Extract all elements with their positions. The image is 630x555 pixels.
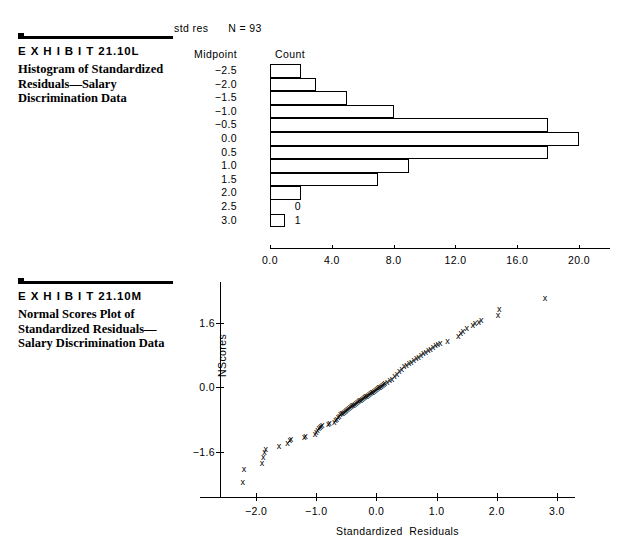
nscores-data-point: x	[437, 338, 444, 347]
cell-midpoint: −1.5	[215, 91, 237, 103]
histogram-bar	[270, 146, 548, 160]
nscores-x-tick	[437, 493, 438, 501]
nscores-y-tick-label: 0.0	[199, 381, 215, 393]
nscores-x-axis-title: Standardized Residuals	[220, 525, 575, 537]
nscores-x-tick-label: 1.0	[429, 505, 445, 517]
exhibit-rule	[18, 278, 173, 288]
histogram-x-tick-label: 0.0	[262, 254, 278, 266]
histogram-header-line: std res N = 93	[174, 22, 262, 34]
histogram-x-tick	[332, 245, 333, 249]
histogram-axis-line	[270, 248, 610, 249]
histogram-x-tick-label: 12.0	[444, 254, 466, 266]
nscores-x-tick	[256, 493, 257, 501]
histogram-bar	[270, 118, 548, 132]
histogram-bar	[270, 64, 301, 78]
histogram-x-tick	[517, 245, 518, 249]
histogram-y-spine	[270, 64, 271, 227]
exhibit-rule-bar	[18, 36, 173, 39]
nscores-data-point: x	[541, 294, 548, 303]
histogram-bars	[270, 64, 610, 248]
column-header-midpoint: Midpoint	[194, 48, 237, 60]
cell-midpoint: 0.5	[221, 146, 237, 158]
column-header-count: Count	[275, 48, 305, 60]
nscores-y-tick	[216, 387, 224, 388]
nscores-data-point: x	[478, 316, 485, 325]
nscores-data-point: x	[302, 432, 309, 441]
histogram-figure: std res N = 93 Midpoint Count −2.52−2.03…	[170, 22, 620, 257]
nscores-plot-area: −2.0−1.00.01.02.03.0 NScores 1.60.0−1.6x…	[220, 282, 575, 497]
nscores-data-point: x	[241, 465, 248, 474]
exhibit-rule-dot-icon	[18, 33, 24, 39]
exhibit-block-m: E X H I B I T 21.10M Normal Scores Plot …	[18, 278, 198, 351]
histogram-x-tick-label: 4.0	[324, 254, 340, 266]
nscores-x-tick-label: 0.0	[369, 505, 385, 517]
histogram-x-tick-label: 16.0	[506, 254, 528, 266]
nscores-y-tick-label: 1.6	[199, 317, 215, 329]
nscores-y-tick-label: −1.6	[193, 446, 215, 458]
exhibit-title-m: Normal Scores Plot of Standardized Resid…	[18, 307, 188, 351]
nscores-data-point: x	[262, 445, 269, 454]
nscores-data-point: x	[496, 304, 503, 313]
histogram-bar	[270, 105, 394, 119]
exhibit-label-m: E X H I B I T 21.10M	[18, 290, 198, 302]
nscores-data-point: x	[288, 435, 295, 444]
nscores-x-tick	[316, 493, 317, 501]
histogram-bar	[270, 78, 316, 92]
histogram-plot-area: 0.04.08.012.016.020.0	[270, 64, 610, 264]
cell-midpoint: 2.0	[221, 186, 237, 198]
nscores-data-point: x	[444, 337, 451, 346]
histogram-bar	[270, 173, 378, 187]
histogram-bar	[270, 159, 409, 173]
nscores-data-point: x	[275, 442, 282, 451]
nscores-x-tick	[557, 493, 558, 501]
cell-midpoint: 2.5	[221, 200, 237, 212]
nscores-x-axis: −2.0−1.00.01.02.03.0	[200, 497, 575, 498]
histogram-x-tick	[455, 245, 456, 249]
exhibit-rule-bar	[18, 281, 173, 284]
cell-midpoint: 0.0	[221, 132, 237, 144]
exhibit-title-l: Histogram of Standardized Residuals—Sala…	[18, 62, 188, 106]
histogram-x-tick	[394, 245, 395, 249]
nscores-data-point: x	[239, 478, 246, 487]
cell-midpoint: −0.5	[215, 118, 237, 130]
nscores-x-tick-label: 3.0	[549, 505, 565, 517]
nscores-x-tick-label: 2.0	[489, 505, 505, 517]
cell-midpoint: 3.0	[221, 214, 237, 226]
nscores-y-tick	[216, 323, 224, 324]
histogram-x-tick-label: 20.0	[568, 254, 590, 266]
histogram-x-tick	[579, 245, 580, 249]
cell-midpoint: −1.0	[215, 105, 237, 117]
cell-midpoint: 1.0	[221, 159, 237, 171]
nscores-x-tick	[376, 493, 377, 501]
histogram-bar	[270, 214, 285, 228]
histogram-x-tick-label: 8.0	[386, 254, 402, 266]
histogram-bar	[270, 186, 301, 200]
nscores-y-tick	[216, 452, 224, 453]
cell-midpoint: 1.5	[221, 173, 237, 185]
histogram-bar	[270, 91, 347, 105]
nscores-x-tick-label: −1.0	[305, 505, 327, 517]
cell-midpoint: −2.5	[215, 64, 237, 76]
exhibit-rule	[18, 33, 173, 43]
nscores-y-axis-title: NScores	[216, 334, 228, 377]
histogram-x-tick	[270, 245, 271, 249]
nscores-x-tick-label: −2.0	[245, 505, 267, 517]
nscores-figure: −2.0−1.00.01.02.03.0 NScores 1.60.0−1.6x…	[190, 282, 620, 542]
histogram-bar	[270, 132, 579, 146]
nscores-y-axis	[220, 282, 221, 497]
cell-midpoint: −2.0	[215, 78, 237, 90]
exhibit-rule-dot-icon	[18, 278, 24, 284]
nscores-x-tick	[497, 493, 498, 501]
